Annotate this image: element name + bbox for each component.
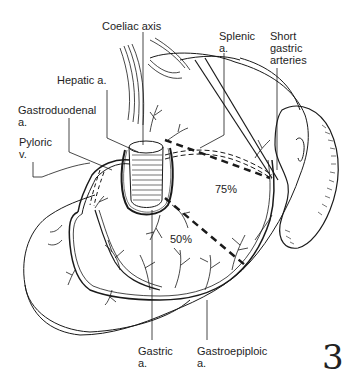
label-gastric-line1: Gastric xyxy=(138,345,173,357)
label-gastroduodenal-line2: a. xyxy=(18,116,96,128)
label-pyloric-line2: v. xyxy=(19,148,52,160)
region-percentage-upper: 75% xyxy=(215,183,237,195)
label-short-gastric-line2: gastric xyxy=(270,42,307,54)
label-splenic-artery: Splenic a. xyxy=(219,30,255,54)
spleen xyxy=(275,106,338,248)
division-line-lower xyxy=(165,198,245,265)
label-gastroduodenal-line1: Gastroduodenal xyxy=(18,104,96,116)
label-gastric-artery: Gastric a. xyxy=(138,345,173,369)
label-gastroduodenal-artery: Gastroduodenal a. xyxy=(18,104,96,128)
label-gastroepiploic-line1: Gastroepiploic xyxy=(197,345,267,357)
label-short-gastric-line1: Short xyxy=(270,30,307,42)
label-hepatic-artery: Hepatic a. xyxy=(57,74,107,86)
label-pyloric-line1: Pyloric xyxy=(19,136,52,148)
label-coeliac-axis: Coeliac axis xyxy=(102,20,161,32)
label-gastroepiploic-line2: a. xyxy=(197,357,267,369)
label-short-gastric-arteries: Short gastric arteries xyxy=(270,30,307,66)
vessel-branches xyxy=(48,105,272,305)
label-splenic-line1: Splenic xyxy=(219,30,255,42)
division-line-upper xyxy=(165,140,270,178)
region-percentage-lower: 50% xyxy=(170,233,192,245)
figure-number: 3 xyxy=(322,337,344,377)
label-gastric-line2: a. xyxy=(138,357,173,369)
aorta xyxy=(122,141,173,214)
label-pyloric-vein: Pyloric v. xyxy=(19,136,52,160)
stomach-outline xyxy=(24,53,309,335)
label-gastroepiploic-artery: Gastroepiploic a. xyxy=(197,345,267,369)
label-short-gastric-line3: arteries xyxy=(270,54,307,66)
label-splenic-line2: a. xyxy=(219,42,255,54)
